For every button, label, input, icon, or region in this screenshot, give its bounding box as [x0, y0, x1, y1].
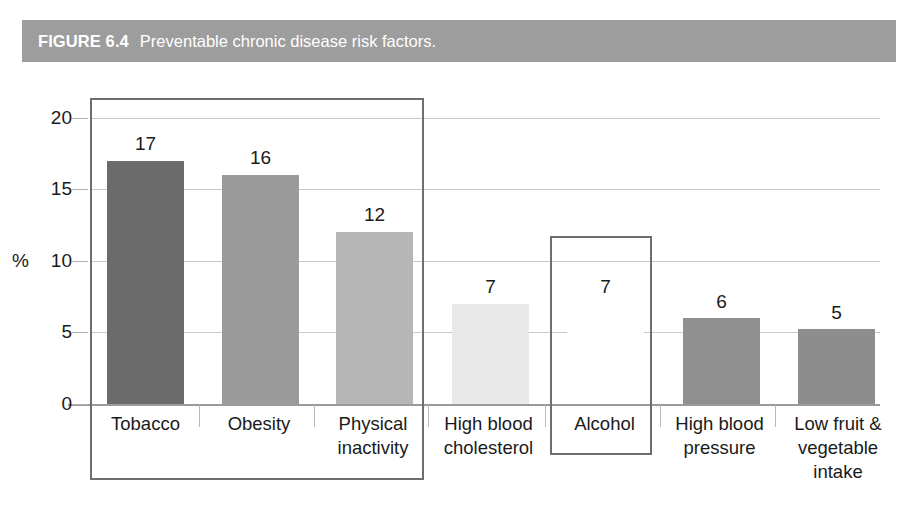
category-label-line: High blood — [432, 412, 545, 436]
category-separator-4 — [545, 405, 546, 427]
y-axis-label-20: 20 — [10, 107, 72, 129]
category-separator-5 — [660, 405, 661, 427]
category-label-line: intake — [779, 460, 897, 484]
category-label-line: Tobacco — [88, 412, 203, 436]
bar-value-low-fruit-vegetable-intake: 5 — [798, 302, 875, 324]
bar-value-alcohol: 7 — [567, 276, 644, 298]
category-label-line: High blood — [664, 412, 775, 436]
gridline-10 — [90, 261, 880, 262]
category-label-physical-inactivity: Physical inactivity — [318, 412, 428, 460]
bar-value-tobacco: 17 — [107, 133, 184, 155]
category-label-line: Physical — [318, 412, 428, 436]
x-axis-baseline — [68, 404, 880, 406]
category-label-low-fruit-vegetable-intake: Low fruit & vegetable intake — [779, 412, 897, 484]
y-axis-title: % — [12, 250, 29, 272]
gridline-20 — [90, 118, 880, 119]
category-label-alcohol: Alcohol — [549, 412, 660, 436]
bar-high-blood-cholesterol[interactable] — [452, 304, 529, 404]
category-label-high-blood-pressure: High blood pressure — [664, 412, 775, 460]
category-label-line: Alcohol — [549, 412, 660, 436]
bar-physical-inactivity[interactable] — [336, 232, 413, 404]
category-label-high-blood-cholesterol: High blood cholesterol — [432, 412, 545, 460]
bar-low-fruit-vegetable-intake[interactable] — [798, 329, 875, 404]
tick-0 — [72, 404, 88, 405]
bar-high-blood-pressure[interactable] — [683, 318, 760, 404]
category-label-tobacco: Tobacco — [88, 412, 203, 436]
bar-value-physical-inactivity: 12 — [336, 204, 413, 226]
bar-chart: 20 15 10 5 0 % 17 16 12 7 7 6 5 Tobacco … — [0, 0, 910, 523]
category-label-obesity: Obesity — [203, 412, 315, 436]
tick-20 — [72, 118, 88, 119]
gridline-15 — [90, 189, 880, 190]
category-label-line: vegetable — [779, 436, 897, 460]
y-axis-label-5: 5 — [10, 321, 72, 343]
y-axis-label-15: 15 — [10, 178, 72, 200]
y-axis-label-0: 0 — [10, 393, 72, 415]
category-label-line: inactivity — [318, 436, 428, 460]
bar-alcohol[interactable] — [567, 304, 644, 404]
category-separator-3 — [428, 405, 429, 427]
category-label-line: pressure — [664, 436, 775, 460]
tick-10 — [72, 261, 88, 262]
bar-obesity[interactable] — [222, 175, 299, 404]
category-label-line: cholesterol — [432, 436, 545, 460]
category-separator-6 — [775, 405, 776, 427]
tick-5 — [72, 332, 88, 333]
category-label-line: Obesity — [203, 412, 315, 436]
bar-value-high-blood-cholesterol: 7 — [452, 276, 529, 298]
bar-value-high-blood-pressure: 6 — [683, 291, 760, 313]
bar-tobacco[interactable] — [107, 161, 184, 404]
bar-value-obesity: 16 — [222, 147, 299, 169]
tick-15 — [72, 189, 88, 190]
category-label-line: Low fruit & — [779, 412, 897, 436]
